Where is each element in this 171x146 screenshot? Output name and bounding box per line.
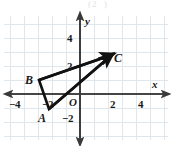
y-tick-label-4: 4 xyxy=(67,33,72,44)
vertex-label-a: A xyxy=(38,112,46,124)
x-tick-label-minus2: −2 xyxy=(42,99,53,110)
vertex-label-c: C xyxy=(114,52,122,64)
vertex-label-b: B xyxy=(25,74,33,86)
y-tick-label-2: 2 xyxy=(67,61,72,72)
x-tick-label-2: 2 xyxy=(110,99,115,110)
x-tick-label-minus4: −4 xyxy=(9,99,20,110)
x-axis-label: x xyxy=(152,79,158,90)
y-axis-label: y xyxy=(85,16,90,27)
x-tick-label-4: 4 xyxy=(138,99,143,110)
coordinate-plane-figure: (2 ) xyxy=(0,0,171,146)
y-tick-label-minus2: −2 xyxy=(62,113,73,124)
origin-label: O xyxy=(69,97,77,108)
